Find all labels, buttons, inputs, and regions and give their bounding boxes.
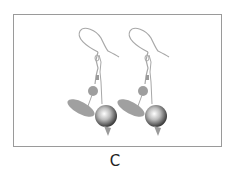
left-view <box>65 28 119 136</box>
right-view <box>115 28 169 136</box>
panel-label: C <box>0 152 230 170</box>
